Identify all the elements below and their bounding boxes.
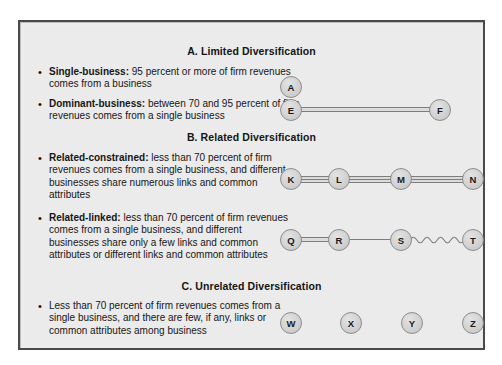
wavy-line-icon — [410, 233, 464, 247]
diagram-node-m: M — [390, 168, 412, 190]
bullet-related-linked: • Related-linked: less than 70 percent o… — [38, 212, 290, 262]
diagram-node-w: W — [280, 312, 302, 334]
bullet-single-business-text: Single-business: 95 percent or more of f… — [49, 66, 293, 91]
diagram-link-m-n — [410, 176, 464, 183]
bullet-unrelated: • Less than 70 percent of firm revenues … — [38, 300, 288, 337]
bullet-single-business: • Single-business: 95 percent or more of… — [38, 66, 293, 91]
bullet-dominant-business-term: Dominant-business: — [49, 98, 145, 109]
diagram-link-l-m — [348, 176, 392, 183]
diagram-node-z: Z — [462, 312, 484, 334]
diagram-node-t: T — [462, 229, 484, 251]
figure-inner-panel: A. Limited Diversification • Single-busi… — [24, 26, 479, 344]
bullet-unrelated-body: Less than 70 percent of firm revenues co… — [49, 300, 280, 336]
diagram-node-k: K — [280, 168, 302, 190]
section-heading-b: B. Related Diversification — [24, 131, 479, 143]
diagram-link-q-r — [298, 237, 330, 242]
bullet-related-constrained: • Related-constrained: less than 70 perc… — [38, 152, 290, 202]
diagram-node-y: Y — [401, 312, 423, 334]
bullet-related-constrained-term: Related-constrained: — [49, 152, 148, 163]
section-heading-c: C. Unrelated Diversification — [24, 280, 479, 292]
bullet-dot-icon: • — [38, 98, 42, 110]
diagram-node-a: A — [280, 76, 302, 98]
diagram-link-k-l — [298, 176, 330, 183]
diagram-node-q: Q — [280, 229, 302, 251]
diagram-node-f: F — [429, 99, 451, 121]
bullet-dot-icon: • — [38, 300, 42, 312]
diagram-node-n: N — [462, 168, 484, 190]
diagram-link-r-s — [348, 239, 392, 240]
diagram-node-s: S — [390, 229, 412, 251]
bullet-dot-icon: • — [38, 212, 42, 224]
diagram-link-e-f — [298, 107, 435, 112]
bullet-dot-icon: • — [38, 152, 42, 164]
bullet-related-constrained-text: Related-constrained: less than 70 percen… — [49, 152, 290, 202]
bullet-related-linked-text: Related-linked: less than 70 percent of … — [49, 212, 290, 262]
bullet-dot-icon: • — [38, 66, 42, 78]
bullet-unrelated-text: Less than 70 percent of firm revenues co… — [49, 300, 288, 337]
diagram-node-r: R — [328, 229, 350, 251]
bullet-single-business-term: Single-business: — [49, 66, 129, 77]
bullet-dominant-business-text: Dominant-business: between 70 and 95 per… — [49, 98, 300, 123]
bullet-dominant-business: • Dominant-business: between 70 and 95 p… — [38, 98, 300, 123]
bullet-related-linked-term: Related-linked: — [49, 212, 121, 223]
section-heading-a: A. Limited Diversification — [24, 45, 479, 57]
diagram-link-s-t — [410, 233, 464, 247]
diagram-node-l: L — [328, 168, 350, 190]
diagram-node-x: X — [340, 312, 362, 334]
figure-frame: A. Limited Diversification • Single-busi… — [18, 20, 485, 350]
diagram-node-e: E — [280, 99, 302, 121]
